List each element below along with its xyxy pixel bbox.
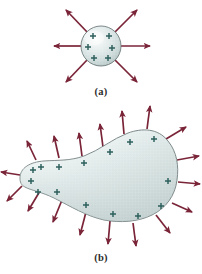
field-arrow-b-01: [27, 141, 36, 160]
field-arrow-b-03: [79, 133, 82, 156]
field-arrow-b-13: [108, 221, 110, 244]
panel-b-caption: (b): [0, 252, 202, 263]
field-arrow-b-09: [178, 182, 200, 184]
field-arrow-b-15: [53, 200, 62, 222]
field-arrow-upper-left: [66, 10, 88, 33]
field-arrow-b-10: [172, 203, 192, 212]
field-arrow-lower-right: [114, 59, 137, 82]
charged-irregular-conductor-shading: [20, 130, 178, 222]
field-arrow-b-12: [133, 223, 136, 246]
field-arrow-b-04: [100, 124, 103, 147]
field-arrow-lower-left: [66, 59, 88, 82]
field-arrow-b-14: [80, 212, 86, 235]
field-arrow-b-18: [1, 172, 20, 175]
field-arrow-b-07: [166, 127, 186, 139]
panel-a-group: [54, 10, 150, 82]
field-arrow-upper-right: [114, 10, 137, 33]
field-arrow-b-11: [156, 215, 170, 233]
panel-b-group: [1, 106, 200, 246]
charged-sphere-highlight: [84, 31, 104, 46]
field-arrow-b-02: [54, 136, 59, 158]
field-arrow-b-17: [7, 186, 22, 201]
figure-root: (a) (b): [0, 0, 202, 274]
field-arrow-b-08: [177, 156, 199, 160]
field-arrow-b-06: [147, 106, 150, 129]
figure-canvas: [0, 0, 202, 274]
panel-a-caption: (a): [0, 86, 202, 97]
field-arrow-b-05: [122, 111, 124, 134]
